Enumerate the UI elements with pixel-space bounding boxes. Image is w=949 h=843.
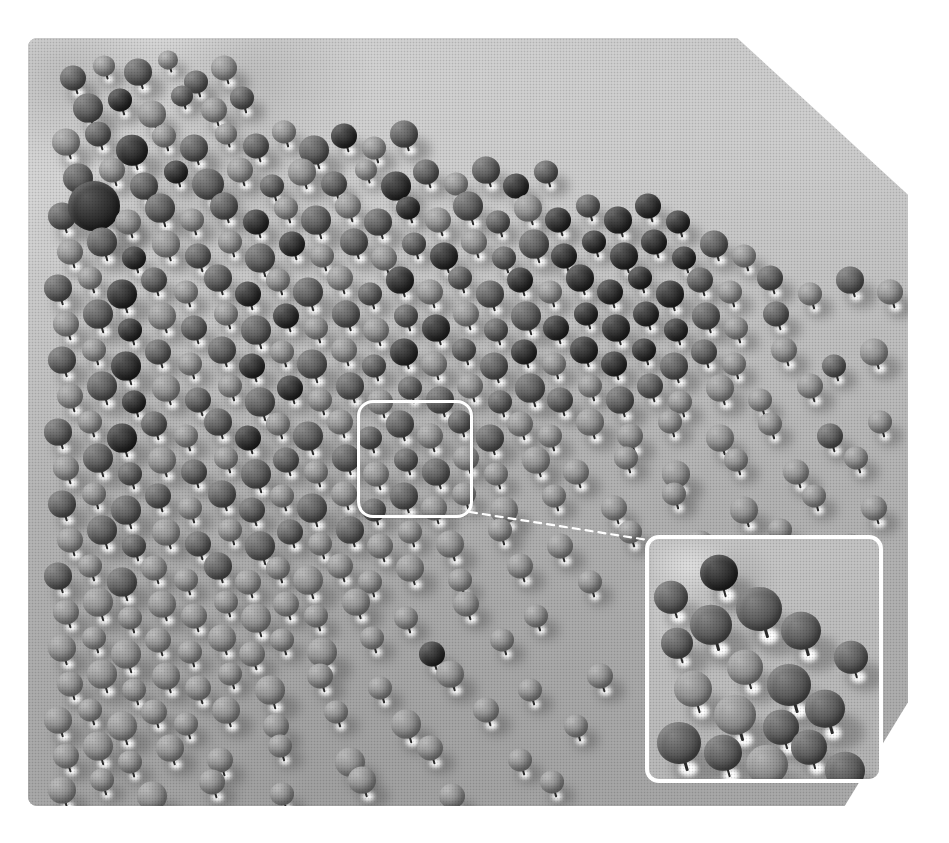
tree-canopy (93, 55, 115, 76)
tree-canopy (164, 160, 188, 183)
tree-canopy (488, 390, 512, 413)
tree-canopy (425, 208, 451, 233)
tree-canopy (748, 388, 772, 411)
tree-canopy (270, 782, 294, 805)
tree-canopy (628, 266, 652, 289)
tree-canopy (861, 496, 887, 521)
tree-canopy (239, 498, 265, 523)
tree-canopy (60, 66, 86, 91)
tree-canopy (524, 604, 548, 627)
tree-canopy (235, 570, 261, 595)
tree-canopy (208, 625, 236, 652)
tree-canopy (519, 230, 549, 259)
tree-canopy (394, 304, 418, 327)
tree-canopy (245, 388, 275, 417)
tree-canopy (44, 707, 72, 734)
tree-canopy (235, 426, 261, 451)
tree-canopy (602, 315, 630, 342)
tree-canopy (332, 301, 360, 328)
tree-canopy (547, 534, 573, 559)
tree-canopy (732, 244, 756, 267)
tree-canopy (327, 554, 353, 579)
tree-canopy (362, 136, 386, 159)
tree-canopy (566, 265, 594, 292)
tree-canopy (724, 448, 748, 471)
tree-canopy (308, 532, 332, 555)
tree-canopy (185, 388, 211, 413)
tree-canopy (304, 316, 328, 339)
tree-canopy (288, 159, 316, 186)
tree-canopy (367, 534, 393, 559)
tree-canopy (331, 482, 357, 507)
tree-canopy (185, 676, 211, 701)
tree-canopy (141, 412, 167, 437)
tree-canopy (122, 534, 146, 557)
tree-canopy (522, 447, 550, 474)
magnified-region-outline[interactable] (357, 400, 473, 518)
tree-canopy (204, 553, 232, 580)
tree-canopy (266, 412, 290, 435)
tree-canopy (714, 695, 756, 735)
tree-canopy (118, 318, 142, 341)
magnified-detail-inset[interactable] (645, 535, 883, 783)
tree-canopy (797, 374, 823, 399)
tree-canopy (268, 734, 292, 757)
tree-canopy (270, 628, 294, 651)
tree-canopy (279, 232, 305, 257)
tree-canopy (617, 424, 643, 449)
tree-canopy (90, 768, 114, 791)
tree-canopy (783, 460, 809, 485)
tree-canopy (180, 135, 208, 162)
tree-canopy (272, 120, 296, 143)
tree-canopy (439, 784, 465, 806)
tree-canopy (515, 374, 545, 403)
tree-canopy (111, 640, 141, 669)
tree-canopy (181, 604, 207, 629)
tree-canopy (78, 410, 102, 433)
tree-canopy (218, 518, 242, 541)
tree-canopy (570, 337, 598, 364)
tree-canopy (239, 642, 265, 667)
tree-canopy (52, 129, 80, 156)
tree-canopy (44, 275, 72, 302)
tree-canopy (201, 98, 227, 123)
tree-canopy (448, 266, 472, 289)
tree-canopy (448, 568, 472, 591)
tree-canopy (266, 268, 290, 291)
tree-canopy (82, 626, 106, 649)
tree-canopy (582, 230, 606, 253)
tree-canopy (218, 662, 242, 685)
tree-canopy (822, 354, 846, 377)
tree-canopy (185, 532, 211, 557)
tree-canopy (336, 517, 364, 544)
tree-canopy (490, 628, 514, 651)
tree-canopy (757, 266, 783, 291)
tree-canopy (204, 265, 232, 292)
tree-canopy (124, 59, 152, 86)
tree-canopy (156, 735, 184, 762)
tree-canopy (868, 410, 892, 433)
tree-canopy (148, 591, 176, 618)
tree-canopy (718, 280, 742, 303)
tree-canopy (398, 520, 422, 543)
tree-canopy (273, 304, 299, 329)
tree-canopy (152, 375, 180, 402)
tree-canopy (371, 246, 397, 271)
tree-canopy (538, 280, 562, 303)
tree-canopy (239, 354, 265, 379)
tree-canopy (452, 338, 476, 361)
tree-canopy (836, 267, 864, 294)
tree-canopy (654, 581, 688, 614)
tree-canopy (348, 767, 376, 794)
tree-canopy (185, 244, 211, 269)
tree-canopy (358, 282, 382, 305)
tree-canopy (115, 210, 141, 235)
tree-canopy (368, 676, 392, 699)
tree-canopy (355, 159, 377, 180)
tree-canopy (692, 303, 720, 330)
tree-canopy (417, 736, 443, 761)
tree-canopy (402, 232, 426, 255)
tree-canopy (324, 700, 348, 723)
tree-canopy (293, 566, 323, 595)
tree-canopy (108, 88, 132, 111)
